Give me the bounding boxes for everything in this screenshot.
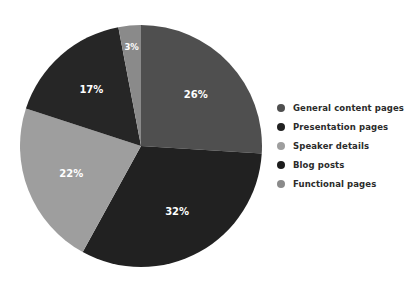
pie-slice-value-label: 32% <box>165 206 189 217</box>
pie-chart-area: 26%32%22%17%3% <box>20 25 262 267</box>
pie-slice-value-label: 17% <box>79 84 103 95</box>
legend-color-swatch-icon <box>277 123 285 131</box>
chart-legend: General content pages Presentation pages… <box>277 98 412 193</box>
legend-item-functional-pages[interactable]: Functional pages <box>277 174 412 193</box>
legend-color-swatch-icon <box>277 142 285 150</box>
legend-item-speaker-details[interactable]: Speaker details <box>277 136 412 155</box>
pie-slice-value-label: 22% <box>59 168 83 179</box>
legend-item-label: Speaker details <box>293 141 369 151</box>
pie-slices-group <box>20 25 262 267</box>
legend-item-label: General content pages <box>293 103 404 113</box>
legend-color-swatch-icon <box>277 180 285 188</box>
legend-color-swatch-icon <box>277 104 285 112</box>
legend-item-label: Presentation pages <box>293 122 388 132</box>
legend-color-swatch-icon <box>277 161 285 169</box>
pie-chart-figure: 26%32%22%17%3% General content pages Pre… <box>0 0 412 289</box>
legend-item-presentation-pages[interactable]: Presentation pages <box>277 117 412 136</box>
legend-item-label: Functional pages <box>293 179 376 189</box>
pie-slice-value-label: 26% <box>184 89 208 100</box>
legend-item-label: Blog posts <box>293 160 344 170</box>
pie-chart-svg: 26%32%22%17%3% <box>20 25 262 267</box>
pie-slice-value-label: 3% <box>124 42 139 52</box>
legend-item-general-content-pages[interactable]: General content pages <box>277 98 412 117</box>
legend-item-blog-posts[interactable]: Blog posts <box>277 155 412 174</box>
